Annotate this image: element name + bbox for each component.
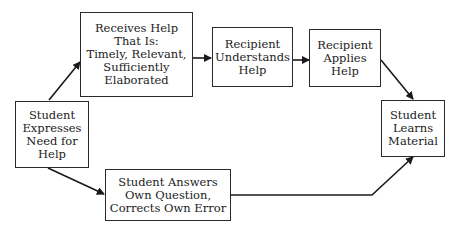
arrow-expresses-to-answers — [48, 168, 104, 194]
node-learns-material: Student Learns Material — [381, 100, 445, 157]
node-label: Receives Help That Is: Timely, Relevant,… — [86, 22, 186, 87]
node-expresses-need: Student Expresses Need for Help — [15, 101, 89, 168]
node-receives-help: Receives Help That Is: Timely, Relevant,… — [80, 12, 193, 97]
arrow-applies-to-learns — [381, 60, 413, 99]
node-label: Student Answers Own Question, Corrects O… — [110, 176, 226, 215]
node-label: Student Expresses Need for Help — [22, 109, 81, 161]
node-applies-help: Recipient Applies Help — [309, 29, 381, 87]
node-answers-own: Student Answers Own Question, Corrects O… — [105, 169, 231, 221]
arrow-expresses-to-receives — [49, 62, 80, 100]
node-understands-help: Recipient Understands Help — [212, 27, 293, 87]
node-label: Recipient Understands Help — [215, 38, 290, 77]
node-label: Student Learns Material — [388, 109, 438, 148]
arrow-answers-to-learns — [230, 157, 413, 195]
node-label: Recipient Applies Help — [317, 39, 372, 78]
